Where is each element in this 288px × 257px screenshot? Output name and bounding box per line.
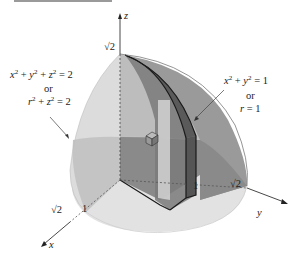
wedge-light-strip	[158, 100, 170, 200]
z-tick-sqrt2: √2	[104, 42, 115, 53]
x-tick-1: 1	[82, 204, 87, 215]
solid-diagram-svg	[0, 0, 288, 257]
z-axis-label: z	[124, 11, 128, 22]
x-tick-sqrt2: √2	[51, 205, 62, 216]
y-tick-sqrt2: √2	[230, 179, 241, 190]
x-axis-label: x	[49, 240, 54, 251]
sphere-equation-polar: r2 + z2 = 2	[28, 97, 71, 108]
diagram-canvas: z √2 x 1 √2 y 1 √2 x2 + y2 + z2 = 2 or r…	[0, 0, 288, 257]
y-axis-arrowhead	[281, 199, 288, 204]
sphere-or-label: or	[44, 84, 53, 95]
y-axis	[247, 188, 284, 202]
y-tick-1: 1	[193, 181, 198, 192]
x-axis	[44, 222, 70, 244]
sphere-leader-line	[50, 117, 68, 137]
y-axis-label: y	[257, 208, 262, 219]
cylinder-equation-polar: r = 1	[240, 104, 261, 115]
cylinder-equation-cartesian: x2 + y2 = 1	[224, 76, 268, 87]
z-axis-arrowhead	[118, 13, 122, 19]
cylinder-or-label: or	[246, 91, 255, 102]
sphere-equation-cartesian: x2 + y2 + z2 = 2	[10, 70, 73, 81]
